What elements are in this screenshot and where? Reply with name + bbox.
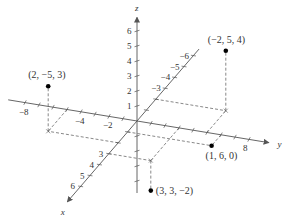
tick-mark	[163, 88, 168, 89]
z-tick-label: 5	[127, 41, 132, 51]
projection-line	[48, 110, 67, 132]
x-tick-label: 5	[80, 171, 85, 181]
tick-mark	[78, 186, 83, 187]
x-tick-label: 4	[89, 160, 94, 170]
x-neg-tick-label: −3	[151, 83, 161, 93]
projection-line	[109, 154, 151, 161]
z-axis-label: z	[134, 3, 139, 13]
z-tick-label: 6	[127, 26, 132, 36]
y-tick-label: 8	[243, 143, 248, 153]
point-label: (3, 3, −2)	[156, 185, 193, 197]
tick-mark	[191, 55, 196, 56]
z-tick-label: 4	[127, 56, 132, 66]
x-axis-line	[67, 49, 199, 202]
tick-mark	[144, 110, 149, 111]
point-dot	[149, 188, 154, 193]
z-tick-label: 1	[127, 101, 132, 111]
y-axis-label: y	[277, 139, 282, 149]
tick-mark	[172, 77, 177, 78]
projection-line	[156, 99, 226, 111]
x-tick-label: 6	[71, 181, 76, 191]
z-tick-label: 3	[127, 71, 132, 81]
tick-mark	[106, 153, 111, 154]
projection-line	[151, 128, 179, 161]
point-dot	[209, 143, 214, 148]
y-tick-label: −2	[103, 120, 113, 130]
tick-mark	[153, 99, 158, 100]
tick-mark	[125, 132, 130, 133]
x-tick-label: 3	[99, 149, 104, 159]
projection-line	[128, 132, 212, 146]
tick-mark	[116, 142, 121, 143]
z-tick-label: 2	[127, 86, 132, 96]
projection-line	[48, 131, 118, 143]
y-tick-label: −8	[19, 107, 29, 117]
y-axis-line	[8, 100, 268, 143]
point-label: (1, 6, 0)	[206, 150, 238, 162]
point-dot	[46, 84, 51, 89]
point-label: (2, −5, 3)	[28, 69, 65, 81]
x-neg-tick-label: −6	[179, 51, 189, 61]
tick-mark	[88, 175, 93, 176]
point-dot	[224, 48, 229, 53]
coordinate-diagram: xyz 123456−8−4−283456−3−4−5−6 (2, −5, 3)…	[0, 0, 292, 216]
x-neg-tick-label: −4	[161, 72, 171, 82]
tick-mark	[182, 66, 187, 67]
x-axis-label: x	[60, 207, 65, 216]
projection-line	[207, 111, 226, 133]
x-neg-tick-label: −5	[170, 62, 180, 72]
tick-mark	[97, 164, 102, 165]
y-tick-label: −4	[75, 116, 85, 126]
point-label: (−2, 5, 4)	[208, 34, 245, 46]
